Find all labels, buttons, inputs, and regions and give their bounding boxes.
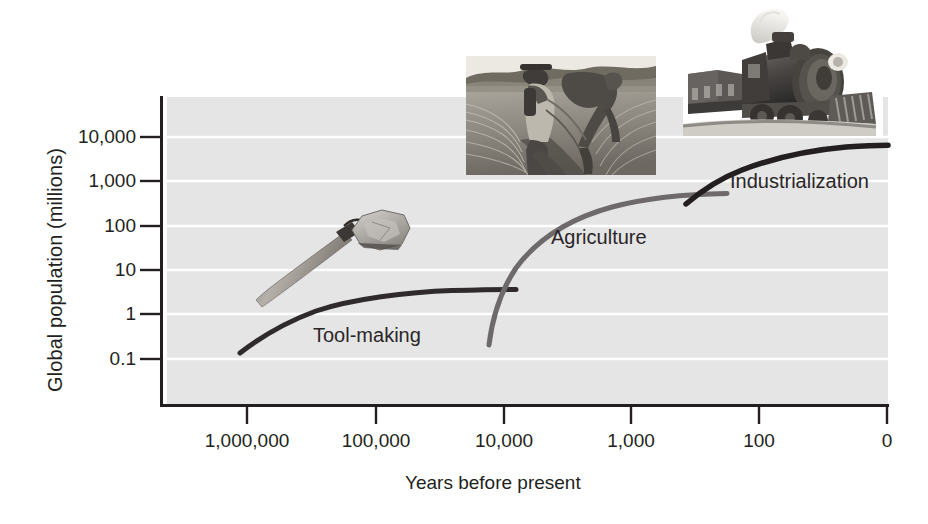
x-tick-label-1000000: 1,000,000	[177, 430, 317, 452]
x-tick-label-100000: 100,000	[311, 430, 441, 452]
x-tick-label-100: 100	[714, 430, 804, 452]
x-tick-label-10000: 10,000	[444, 430, 564, 452]
y-tick-label-10000: 10,000	[44, 126, 136, 148]
industrialization-label: Industrialization	[730, 170, 869, 193]
y-axis-ticks	[140, 137, 161, 359]
agriculture-label: Agriculture	[551, 226, 647, 249]
population-growth-figure: Global population (millions)	[0, 0, 928, 524]
x-axis-title: Years before present	[405, 472, 581, 494]
plowing-farmer-photo	[466, 56, 656, 186]
y-tick-label-100: 100	[44, 215, 136, 237]
y-tick-label-10: 10	[44, 259, 136, 281]
x-axis-ticks	[247, 406, 887, 424]
y-tick-label-1000: 1,000	[44, 170, 136, 192]
tool-making-label: Tool-making	[313, 324, 421, 347]
steam-locomotive-photo	[683, 4, 883, 136]
x-tick-label-1000: 1,000	[576, 430, 686, 452]
y-tick-label-0point1: 0.1	[44, 348, 136, 370]
x-tick-label-0: 0	[857, 430, 917, 452]
y-tick-label-1: 1	[44, 303, 136, 325]
